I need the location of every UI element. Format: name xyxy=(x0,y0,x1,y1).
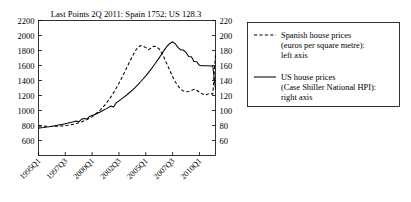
x-tick-label: 2000Q1 xyxy=(71,157,96,182)
legend-entry-spain-line-2: (euros per square metre): xyxy=(281,41,365,50)
house-prices-line-chart: Last Points 2Q 2011: Spain 1752; US 128.… xyxy=(0,0,411,202)
right-tick-label: 140 xyxy=(220,76,233,86)
left-tick-label: 1800 xyxy=(18,46,35,56)
x-tick-label: 2002Q3 xyxy=(98,157,123,182)
legend-entry-spain-line-3: left axis xyxy=(281,51,308,60)
x-tick-label: 2005Q1 xyxy=(125,157,150,182)
legend-entry-us-line-3: right axis xyxy=(281,93,312,102)
series-line-spain xyxy=(39,46,216,127)
left-tick-label: 800 xyxy=(22,121,35,131)
right-tick-label: 100 xyxy=(220,106,233,116)
left-tick-label: 1000 xyxy=(18,106,35,116)
x-tick-label: 2007Q3 xyxy=(152,157,177,182)
x-tick-label: 1997Q3 xyxy=(45,157,70,182)
right-tick-label: 60 xyxy=(220,136,229,146)
left-tick-label: 2000 xyxy=(18,31,35,41)
chart-legend: Spanish house prices (euros per square m… xyxy=(248,23,400,107)
legend-entry-us-line-2: (Case Shiller National HPI): xyxy=(281,83,376,92)
x-tick-label: 2010Q1 xyxy=(179,157,204,182)
plot-frame xyxy=(39,21,216,156)
right-axis-ticks: 6080100120140160180200220 xyxy=(212,16,232,146)
chart-figure: Last Points 2Q 2011: Spain 1752; US 128.… xyxy=(0,0,411,202)
right-tick-label: 220 xyxy=(220,16,233,26)
series-line-us xyxy=(39,42,216,128)
left-tick-label: 1600 xyxy=(18,61,35,71)
x-axis-ticks: 1995Q11997Q32000Q12002Q32005Q12007Q32010… xyxy=(18,152,204,181)
left-tick-label: 600 xyxy=(22,136,35,146)
left-tick-label: 2200 xyxy=(18,16,35,26)
right-tick-label: 80 xyxy=(220,121,229,131)
chart-title: Last Points 2Q 2011: Spain 1752; US 128.… xyxy=(51,9,202,19)
left-tick-label: 1400 xyxy=(18,76,35,86)
legend-entry-us-line-1: US house prices xyxy=(281,73,335,82)
left-tick-label: 1200 xyxy=(18,91,35,101)
right-tick-label: 160 xyxy=(220,61,233,71)
right-tick-label: 120 xyxy=(220,91,233,101)
right-tick-label: 180 xyxy=(220,46,233,56)
x-tick-label: 1995Q1 xyxy=(18,157,43,182)
right-tick-label: 200 xyxy=(220,31,233,41)
legend-entry-spain-line-1: Spanish house prices xyxy=(281,31,351,40)
